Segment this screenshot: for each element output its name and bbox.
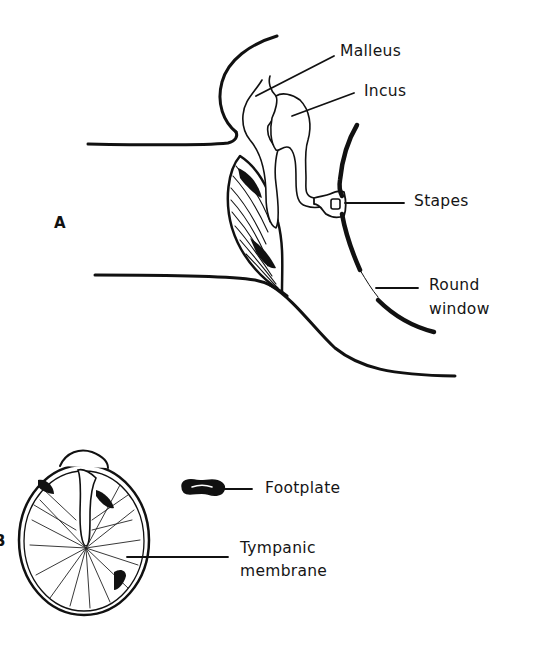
label-incus: Incus (364, 82, 406, 101)
middle-ear-diagram: A B Malleus Incus Stapes Round window Fo… (0, 0, 542, 648)
cochlear-wall-middle (342, 214, 360, 270)
ear-canal-lower-wall (95, 275, 287, 296)
label-tympanic-line2: membrane (240, 562, 327, 581)
ear-canal-upper-wall (88, 132, 237, 145)
cochlear-wall-lower (378, 300, 434, 332)
panel-a-letter: A (54, 214, 66, 232)
pars-flaccida (60, 451, 108, 468)
panel-b-letter: B (0, 532, 5, 550)
stapes-footplate (182, 480, 224, 495)
label-round-window-line2: window (429, 300, 490, 319)
label-tympanic-line1: Tympanic (240, 539, 316, 558)
membrane-shading-right (96, 490, 114, 508)
incus-bone (271, 94, 324, 208)
cochlear-wall-upper (340, 125, 357, 196)
label-malleus: Malleus (340, 42, 401, 61)
membrane-shading-lower-right (114, 570, 126, 590)
label-round-window-line1: Round (429, 276, 480, 295)
stapes-arch (331, 199, 340, 209)
label-footplate: Footplate (265, 479, 340, 498)
round-window-membrane (360, 270, 378, 297)
panel-b-drawing (19, 451, 252, 615)
label-stapes: Stapes (414, 192, 469, 211)
malleus-leader (256, 56, 334, 96)
